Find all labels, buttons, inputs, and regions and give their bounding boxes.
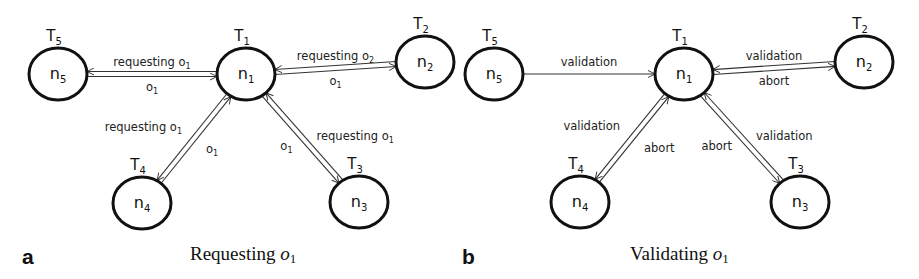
caption-variable: o [713,243,723,264]
task-label-subscript: 5 [55,36,61,47]
node-label-subscript: 3 [361,202,367,213]
task-label-subscript: 3 [356,164,362,175]
node-n2: n2T2 [396,15,454,88]
edge-arrow-n1-to-n4 [595,93,665,179]
caption-requesting: Requesting o1 [190,243,296,265]
task-label-subscript: 4 [577,164,583,175]
node-label-subscript: 4 [582,202,588,213]
edge-label: requesting o1 [105,120,182,136]
task-label: T5 [45,27,62,47]
edge-label-subscript: 1 [213,149,218,158]
task-label-subscript: 3 [797,164,803,175]
task-label-subscript: 2 [861,24,867,35]
node-n5: n5T5 [465,27,523,100]
task-label: T3 [787,155,804,175]
task-label: T4 [129,156,146,176]
node-n3: n3T3 [330,155,388,228]
node-n4: n4T4 [551,155,609,228]
edge-arrow-n4-to-n1 [161,97,231,184]
node-label-subscript: 4 [144,203,150,214]
task-label: T3 [346,155,363,175]
edge-label: o1 [146,80,158,96]
task-label: T2 [851,15,868,35]
node-label-subscript: 2 [866,62,872,73]
edge-arrow-n4-to-n1 [599,97,669,183]
edge-label-subscript: 1 [336,81,341,90]
node-n3: n3T3 [771,155,829,228]
edge-label-subscript: 1 [177,127,182,136]
edge-label: validation [561,55,618,69]
edge-label: requesting o1 [317,129,394,145]
caption-subscript: 1 [722,251,729,266]
edge-label: validation [563,119,620,133]
caption-variable: o [280,243,290,264]
caption-validating: Validating o1 [630,243,729,265]
node-n4: n4T4 [113,156,171,229]
edge-label: abort [644,141,675,155]
panel-b-validating: validationvalidationabortvalidationabort… [465,15,893,228]
node-label-subscript: 5 [496,74,502,85]
task-label: T1 [233,27,250,47]
caption-text: Validating [630,243,708,264]
edge-label: requesting o2 [297,49,374,65]
edge-label: abort [701,139,732,153]
node-n5: n5T5 [29,27,87,100]
edge-label: o1 [206,142,218,158]
panel-letter-b: b [462,245,475,269]
edge-label-subscript: 2 [369,56,374,65]
edge-label: o1 [280,139,292,155]
edge-label: validation [756,129,813,143]
node-label-subscript: 5 [60,74,66,85]
task-label-subscript: 4 [139,165,145,176]
task-label-subscript: 5 [491,36,497,47]
edge-label: o1 [329,74,341,90]
node-n1: n1T1 [655,27,713,100]
node-n2: n2T2 [835,15,893,88]
task-label: T5 [481,27,498,47]
node-label-subscript: 1 [686,74,692,85]
edge-arrow-n1-to-n4 [157,94,227,181]
node-label-subscript: 2 [427,62,433,73]
task-label: T1 [671,27,688,47]
panel-a-requesting: requesting o1o1requesting o2o1requesting… [29,15,454,229]
edge-label-subscript: 1 [287,146,292,155]
node-label-subscript: 1 [248,74,254,85]
node-label-subscript: 3 [802,202,808,213]
network-diagram: requesting o1o1requesting o2o1requesting… [0,0,919,279]
task-label-subscript: 2 [422,24,428,35]
task-label-subscript: 1 [243,36,249,47]
edge-label-subscript: 1 [153,87,158,96]
diagram-stage: requesting o1o1requesting o2o1requesting… [0,0,919,279]
task-label: T2 [412,15,429,35]
edge-label: abort [759,74,790,88]
edge-label-subscript: 1 [186,62,191,71]
caption-subscript: 1 [290,251,297,266]
edge-label-subscript: 1 [389,136,394,145]
edge-label: validation [746,49,803,63]
edge-label: requesting o1 [113,55,190,71]
panel-letter-a: a [22,245,34,269]
caption-text: Requesting [190,243,276,264]
task-label: T4 [567,155,584,175]
task-label-subscript: 1 [681,36,687,47]
node-n1: n1T1 [217,27,275,100]
